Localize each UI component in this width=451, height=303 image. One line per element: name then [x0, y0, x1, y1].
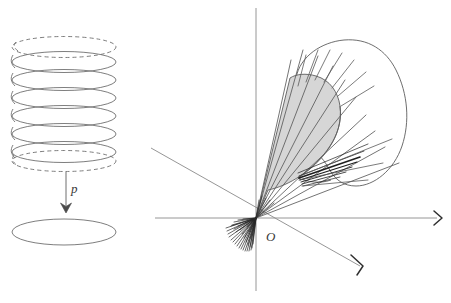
figure-canvas: p — [0, 0, 451, 303]
right-panel-cone-fan: O — [0, 0, 451, 303]
axis-arrowheads — [351, 211, 442, 275]
axis-diagonal-arrowhead — [351, 255, 363, 275]
origin-dense-cluster — [226, 218, 256, 251]
shaded-cone — [256, 74, 341, 218]
origin-label: O — [266, 229, 276, 244]
